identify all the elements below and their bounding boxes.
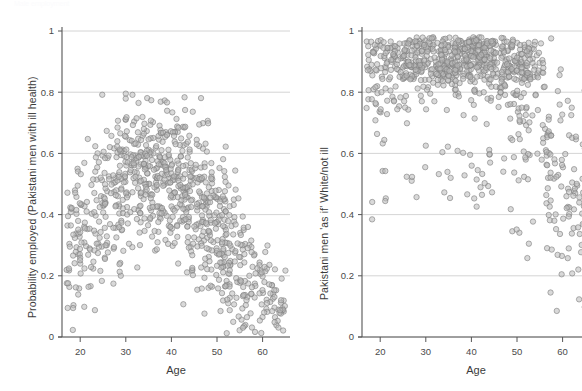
x-tick-label: 30 (421, 346, 432, 357)
y-tick-label: 0 (349, 331, 354, 342)
right-y-axis-label: Pakistani men 'as if' White/not ill (318, 147, 330, 300)
right-scatter-plot: 00.20.40.60.812030405060 (291, 0, 582, 391)
y-tick-label: 0.2 (341, 270, 354, 281)
y-tick-label: 1 (49, 25, 54, 36)
left-scatter-plot: 00.20.40.60.812030405060 (0, 0, 291, 391)
x-tick-label: 20 (375, 346, 386, 357)
x-tick-label: 20 (75, 346, 86, 357)
figure-scatter-pair: Male employment 00.20.40.60.812030405060… (0, 0, 582, 391)
left-x-axis-label: Age (62, 364, 290, 376)
y-tick-label: 0.8 (41, 87, 54, 98)
panel-left: 00.20.40.60.812030405060 Probability emp… (0, 0, 291, 391)
y-tick-label: 0.8 (341, 87, 354, 98)
y-tick-label: 0.4 (41, 209, 54, 220)
y-tick-label: 0.6 (341, 148, 354, 159)
left-y-axis-label: Probability employed (Pakistani men with… (26, 76, 38, 318)
y-tick-label: 0.2 (41, 270, 54, 281)
x-tick-label: 40 (166, 346, 177, 357)
y-tick-label: 1 (349, 25, 354, 36)
panel-right: 00.20.40.60.812030405060 Pakistani men '… (291, 0, 582, 391)
x-tick-label: 40 (466, 346, 477, 357)
x-tick-label: 50 (212, 346, 223, 357)
right-x-axis-label: Age (362, 364, 582, 376)
y-tick-label: 0.6 (41, 148, 54, 159)
x-tick-label: 60 (257, 346, 268, 357)
x-tick-label: 50 (512, 346, 523, 357)
y-tick-label: 0 (49, 331, 54, 342)
y-tick-label: 0.4 (341, 209, 354, 220)
x-tick-label: 30 (121, 346, 132, 357)
x-tick-label: 60 (557, 346, 568, 357)
